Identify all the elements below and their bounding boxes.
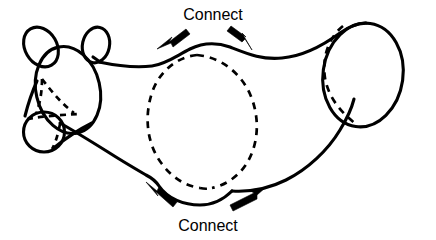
figure-root: Connect Connect [0,0,436,240]
body-bottom-right-outline [232,99,354,191]
jaw-outline [25,81,37,116]
bottom-left-arrow [146,182,177,207]
connect-diagram: Connect Connect [0,0,436,240]
middle-cross-section-left-arc [148,55,200,188]
left-ear [17,21,66,73]
head-ellipse [27,40,109,140]
body-bottom-left-outline [60,123,232,205]
connect-label-bottom: Connect [178,217,238,234]
snout-hidden-edge-right [42,79,74,113]
middle-cross-section-bottom-arc [200,188,212,189]
connect-label-top: Connect [183,6,243,23]
top-left-arrow [157,29,190,49]
right-cap-ellipse [316,18,410,132]
middle-cross-section-right-arc [197,55,257,188]
